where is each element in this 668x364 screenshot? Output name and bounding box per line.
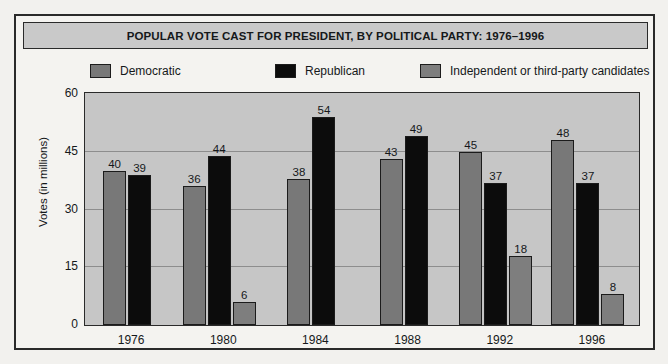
bar-1996-democratic[interactable]: 48 bbox=[551, 140, 574, 325]
chart-title-bar: POPULAR VOTE CAST FOR PRESIDENT, BY POLI… bbox=[23, 22, 648, 49]
legend-item-2[interactable]: Independent or third-party candidates bbox=[420, 64, 649, 78]
legend-swatch-independent bbox=[420, 64, 441, 78]
bar-value-label: 18 bbox=[514, 243, 527, 255]
bar-value-label: 8 bbox=[610, 281, 616, 293]
bar-value-label: 37 bbox=[582, 170, 595, 182]
bar-value-label: 37 bbox=[489, 170, 502, 182]
bar-value-label: 54 bbox=[318, 104, 331, 116]
bar-value-label: 6 bbox=[241, 289, 247, 301]
chart-legend: DemocraticRepublicanIndependent or third… bbox=[90, 60, 650, 82]
legend-label-1: Republican bbox=[305, 64, 365, 78]
y-axis-label: Votes (in millions) bbox=[37, 97, 49, 267]
bar-value-label: 44 bbox=[213, 143, 226, 155]
y-tick-label-45: 45 bbox=[65, 144, 78, 158]
legend-label-2: Independent or third-party candidates bbox=[450, 64, 649, 78]
x-tick-label-1980: 1980 bbox=[177, 333, 269, 347]
bar-1984-republican[interactable]: 54 bbox=[312, 117, 335, 325]
bar-1984-democratic[interactable]: 38 bbox=[287, 179, 310, 325]
bar-1992-republican[interactable]: 37 bbox=[484, 183, 507, 325]
bar-value-label: 40 bbox=[108, 158, 121, 170]
legend-item-0[interactable]: Democratic bbox=[90, 64, 181, 78]
bar-1988-democratic[interactable]: 43 bbox=[380, 159, 403, 325]
y-tick-label-60: 60 bbox=[65, 86, 78, 100]
bar-value-label: 39 bbox=[133, 162, 146, 174]
bar-group-1984: 38541984 bbox=[269, 93, 361, 325]
x-tick-label-1996: 1996 bbox=[546, 333, 638, 347]
bar-1976-democratic[interactable]: 40 bbox=[103, 171, 126, 325]
bar-group-1992: 4537181992 bbox=[454, 93, 546, 325]
bar-1992-democratic[interactable]: 45 bbox=[459, 152, 482, 325]
y-tick-label-15: 15 bbox=[65, 259, 78, 273]
bar-1996-republican[interactable]: 37 bbox=[576, 183, 599, 325]
y-tick-label-0: 0 bbox=[71, 317, 78, 331]
bar-1980-independent[interactable]: 6 bbox=[233, 302, 256, 325]
bar-value-label: 45 bbox=[464, 139, 477, 151]
bar-group-1996: 483781996 bbox=[546, 93, 638, 325]
bar-value-label: 43 bbox=[385, 146, 398, 158]
bar-1996-independent[interactable]: 8 bbox=[601, 294, 624, 325]
bar-value-label: 38 bbox=[293, 166, 306, 178]
bar-1992-independent[interactable]: 18 bbox=[509, 256, 532, 325]
legend-label-0: Democratic bbox=[120, 64, 181, 78]
page-title: POPULAR VOTE CAST FOR PRESIDENT, BY POLI… bbox=[127, 30, 545, 42]
bar-group-1976: 40391976 bbox=[85, 93, 177, 325]
bar-1980-democratic[interactable]: 36 bbox=[183, 186, 206, 325]
bar-value-label: 36 bbox=[188, 173, 201, 185]
x-tick-label-1984: 1984 bbox=[269, 333, 361, 347]
bar-1988-republican[interactable]: 49 bbox=[405, 136, 428, 325]
x-tick-label-1976: 1976 bbox=[85, 333, 177, 347]
bar-1980-republican[interactable]: 44 bbox=[208, 156, 231, 325]
bar-value-label: 48 bbox=[557, 127, 570, 139]
bar-value-label: 49 bbox=[410, 123, 423, 135]
chart-figure: POPULAR VOTE CAST FOR PRESIDENT, BY POLI… bbox=[14, 14, 655, 350]
x-tick-label-1992: 1992 bbox=[454, 333, 546, 347]
x-tick-label-1988: 1988 bbox=[362, 333, 454, 347]
plot-area: 0153045604039197636446198038541984434919… bbox=[84, 92, 640, 326]
legend-item-1[interactable]: Republican bbox=[275, 64, 365, 78]
legend-swatch-democratic bbox=[90, 64, 111, 78]
bar-group-1988: 43491988 bbox=[362, 93, 454, 325]
bar-group-1980: 364461980 bbox=[177, 93, 269, 325]
y-tick-label-30: 30 bbox=[65, 202, 78, 216]
bar-1976-republican[interactable]: 39 bbox=[128, 175, 151, 325]
legend-swatch-republican bbox=[275, 64, 296, 78]
